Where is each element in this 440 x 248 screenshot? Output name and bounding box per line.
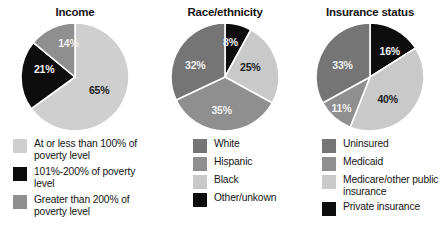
pie-slice-label-race-0: 8% (223, 36, 238, 48)
pie-slice-label-race-2: 35% (211, 104, 231, 116)
legend-swatch-icon (322, 139, 336, 153)
legend-swatch-icon (13, 195, 27, 209)
pie-slice-label-race-3: 32% (185, 59, 205, 71)
legend-item: Private insurance (322, 201, 440, 216)
legend-item: 101%-200% of poverty level (13, 166, 150, 190)
chart-panel-race-ethnicity: Race/ethnicity 8% 25% 35% 32% White Hisp… (150, 0, 300, 248)
legend-label: White (214, 138, 240, 150)
pie-slice-label-income-1: 21% (34, 63, 54, 75)
legend-insurance-status: Uninsured Medicaid Medicare/other public… (300, 138, 440, 216)
legend-item: White (193, 138, 300, 153)
legend-item: Other/unkown (193, 192, 300, 207)
legend-swatch-icon (193, 157, 207, 171)
chart-panel-income: Income 65% 21% 14% At or less than 100% … (0, 0, 150, 248)
legend-swatch-icon (193, 139, 207, 153)
legend-label: Uninsured (343, 138, 389, 150)
legend-label: 101%-200% of poverty level (34, 166, 150, 190)
legend-label: Other/unkown (214, 192, 276, 204)
chart-panel-insurance-status: Insurance status 16% 40% 11% 33% Uninsur… (300, 0, 440, 248)
legend-swatch-icon (193, 193, 207, 207)
legend-swatch-icon (322, 202, 336, 216)
legend-swatch-icon (322, 175, 336, 189)
chart-title-insurance-status: Insurance status (300, 5, 440, 19)
pie-slice-label-insurance-0: 16% (380, 45, 400, 57)
legend-label: Greater than 200% of poverty level (34, 194, 150, 218)
legend-swatch-icon (13, 167, 27, 181)
chart-title-race-ethnicity: Race/ethnicity (150, 5, 300, 19)
pie-chart-race-ethnicity: 8% 25% 35% 32% (170, 22, 280, 132)
pie-slice-label-insurance-3: 33% (332, 59, 352, 71)
legend-label: Hispanic (214, 156, 252, 168)
chart-title-income: Income (0, 5, 150, 19)
pie-slice-label-income-2: 14% (58, 37, 78, 49)
legend-item: Medicare/other public insurance (322, 174, 440, 198)
legend-income: At or less than 100% of poverty level 10… (0, 138, 150, 218)
pie-chart-insurance-status: 16% 40% 11% 33% (315, 22, 425, 132)
legend-label: Medicaid (343, 156, 383, 168)
legend-item: Hispanic (193, 156, 300, 171)
pie-slice-label-insurance-1: 40% (377, 93, 397, 105)
pie-chart-income: 65% 21% 14% (20, 22, 130, 132)
legend-label: Medicare/other public insurance (343, 174, 440, 198)
pie-slice-label-race-1: 25% (240, 61, 260, 73)
pie-chart-figure: Income 65% 21% 14% At or less than 100% … (0, 0, 440, 248)
legend-swatch-icon (322, 157, 336, 171)
legend-label: Private insurance (343, 201, 420, 213)
legend-item: Uninsured (322, 138, 440, 153)
legend-item: Medicaid (322, 156, 440, 171)
legend-label: Black (214, 174, 238, 186)
legend-race-ethnicity: White Hispanic Black Other/unkown (150, 138, 300, 207)
pie-slice-label-insurance-2: 11% (331, 102, 351, 114)
legend-item: At or less than 100% of poverty level (13, 138, 150, 162)
legend-swatch-icon (193, 175, 207, 189)
legend-item: Greater than 200% of poverty level (13, 194, 150, 218)
legend-swatch-icon (13, 139, 27, 153)
legend-label: At or less than 100% of poverty level (34, 138, 150, 162)
pie-slice-label-income-0: 65% (89, 84, 109, 96)
legend-item: Black (193, 174, 300, 189)
pie-insurance-svg (315, 22, 425, 132)
